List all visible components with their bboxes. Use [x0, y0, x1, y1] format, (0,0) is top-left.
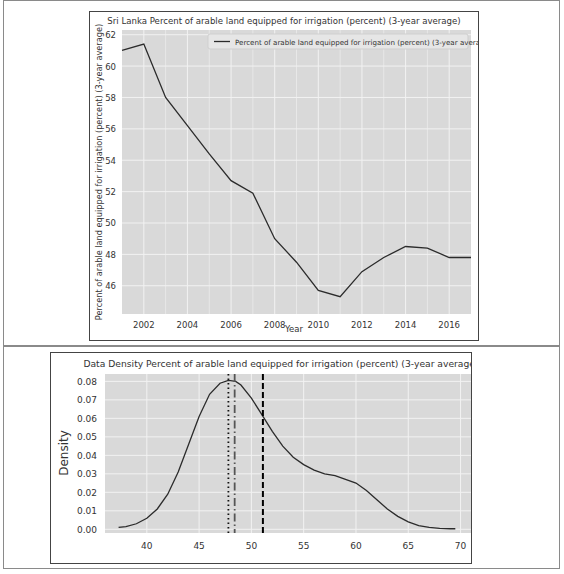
y-tick-label: 0.06	[77, 414, 97, 424]
x-tick-label: 2004	[177, 320, 199, 330]
x-tick-label: 55	[298, 541, 309, 551]
y-axis-label: Density	[57, 430, 71, 476]
y-tick-label: 0.02	[77, 488, 97, 498]
y-tick-label: 0.03	[77, 469, 97, 479]
y-tick-label: 46	[105, 281, 116, 291]
x-tick-label: 2008	[264, 320, 286, 330]
legend: Percent of arable land equipped for irri…	[208, 34, 478, 49]
y-tick-label: 48	[105, 250, 116, 260]
y-tick-label: 60	[105, 62, 116, 72]
line-chart-figure: 2002200420062008201020122014201646485052…	[89, 11, 479, 341]
y-tick-label: 58	[105, 93, 116, 103]
line-chart: 2002200420062008201020122014201646485052…	[90, 12, 478, 340]
y-tick-label: 0.00	[77, 525, 97, 535]
y-tick-label: 0.01	[77, 506, 97, 516]
x-tick-label: 40	[141, 541, 153, 551]
y-tick-label: 56	[105, 124, 116, 134]
x-tick-label: 2010	[307, 320, 329, 330]
x-tick-label: 50	[246, 541, 258, 551]
legend-label: Percent of arable land equipped for irri…	[235, 38, 478, 47]
y-tick-label: 54	[105, 156, 116, 166]
x-axis-label: Year	[284, 324, 304, 334]
y-tick-label: 52	[105, 187, 116, 197]
x-tick-label: 70	[455, 541, 467, 551]
top-panel: 2002200420062008201020122014201646485052…	[3, 0, 560, 346]
x-tick-label: 2012	[351, 320, 373, 330]
x-tick-label: 45	[193, 541, 204, 551]
y-tick-label: 62	[105, 30, 116, 40]
x-tick-label: 60	[350, 541, 362, 551]
bottom-panel: 404550556065700.000.010.020.030.040.050.…	[3, 346, 560, 569]
density-chart: 404550556065700.000.010.020.030.040.050.…	[51, 353, 471, 563]
plot-area	[105, 374, 471, 533]
y-tick-label: 0.04	[77, 451, 97, 461]
density-chart-figure: 404550556065700.000.010.020.030.040.050.…	[50, 352, 472, 564]
y-tick-label: 0.07	[77, 395, 97, 405]
x-tick-label: 2006	[220, 320, 242, 330]
x-tick-label: 2014	[395, 320, 417, 330]
chart-title: Sri Lanka Percent of arable land equippe…	[107, 16, 460, 26]
x-tick-label: 65	[403, 541, 414, 551]
y-axis-label: Percent of arable land equipped for irri…	[94, 24, 104, 320]
x-tick-label: 2002	[133, 320, 155, 330]
y-tick-label: 0.08	[77, 377, 97, 387]
y-tick-label: 50	[105, 218, 116, 228]
x-tick-label: 2016	[438, 320, 460, 330]
chart-title: Data Density Percent of arable land equi…	[83, 358, 471, 369]
y-tick-label: 0.05	[77, 432, 97, 442]
